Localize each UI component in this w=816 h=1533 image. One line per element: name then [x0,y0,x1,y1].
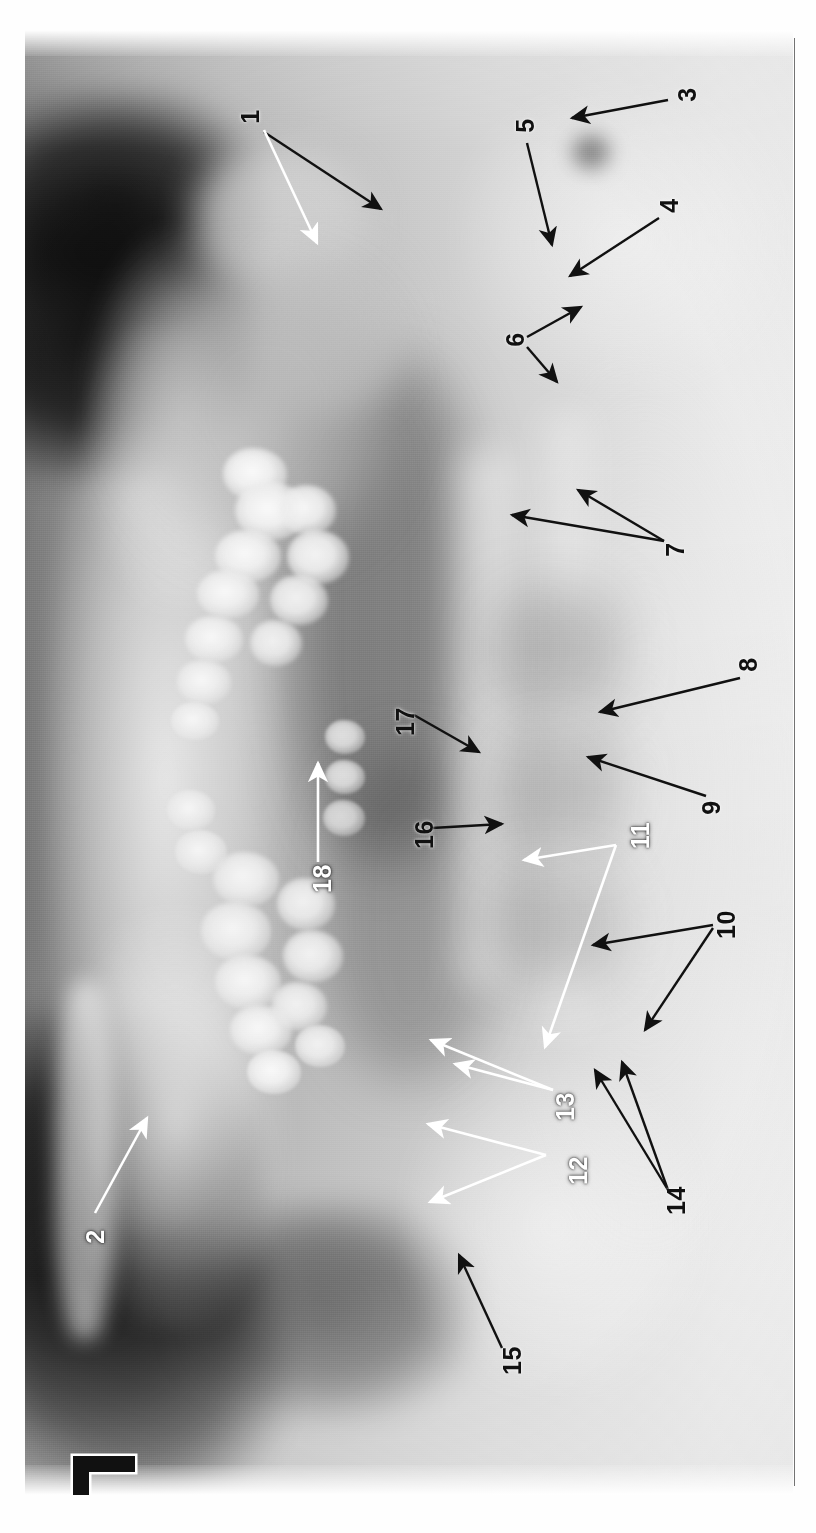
film-vertical-gradient [25,30,793,1495]
radiograph-page: 1 2 3 4 5 6 7 8 9 10 11 12 13 14 15 16 1… [0,0,816,1533]
panoramic-radiograph-image [25,30,793,1495]
page-edge-rule [794,38,795,1486]
film-top-edge [25,30,793,56]
side-marker-L-icon [67,1452,141,1495]
